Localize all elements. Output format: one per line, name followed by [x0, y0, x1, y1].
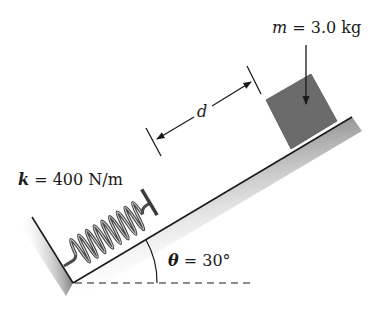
spring-constant-value: = 400 N/m — [29, 170, 123, 189]
wall-shading — [20, 217, 73, 296]
spring — [51, 189, 160, 274]
distance-tick-left — [146, 128, 161, 156]
angle-symbol: θ — [168, 251, 179, 270]
distance-arrow-upper — [212, 82, 251, 106]
distance-label: d — [197, 102, 207, 121]
distance-tick-right — [247, 66, 261, 94]
angle-value: = 30° — [179, 251, 231, 270]
incline-ground-shading — [73, 117, 362, 298]
distance-arrow-lower — [157, 117, 194, 139]
angle-label: θ = 30° — [168, 251, 231, 270]
spring-constant-label: k = 400 N/m — [18, 170, 123, 189]
mass-symbol: m — [272, 18, 287, 37]
mass-label: m = 3.0 kg — [272, 18, 361, 37]
incline-spring-diagram: m = 3.0 kg d k = 400 N/m θ = 30° — [0, 0, 382, 310]
mass-value: = 3.0 kg — [287, 18, 361, 37]
spring-constant-symbol: k — [18, 170, 29, 189]
